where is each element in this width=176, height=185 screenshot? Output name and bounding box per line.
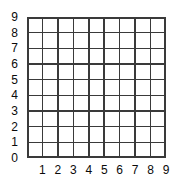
y-axis-tick-7: 7	[4, 42, 18, 54]
x-axis-tick-5: 5	[97, 164, 111, 176]
y-axis-tick-1: 1	[4, 136, 18, 148]
x-axis-tick-1: 1	[35, 164, 49, 176]
y-axis-tick-9: 9	[4, 11, 18, 23]
x-axis-tick-4: 4	[82, 164, 96, 176]
x-axis-tick-3: 3	[66, 164, 80, 176]
y-axis-tick-2: 2	[4, 121, 18, 133]
x-axis-tick-9: 9	[159, 164, 173, 176]
x-axis-tick-6: 6	[113, 164, 127, 176]
coordinate-grid-figure: 0123456789 123456789	[0, 0, 176, 185]
x-axis-tick-8: 8	[144, 164, 158, 176]
y-axis-tick-6: 6	[4, 58, 18, 70]
plot-grid-area	[27, 17, 166, 158]
y-axis-tick-5: 5	[4, 74, 18, 86]
x-axis-tick-7: 7	[128, 164, 142, 176]
y-axis-tick-8: 8	[4, 27, 18, 39]
y-axis-tick-0: 0	[4, 152, 18, 164]
grid-lines	[27, 17, 166, 158]
x-axis-tick-2: 2	[51, 164, 65, 176]
y-axis-tick-3: 3	[4, 105, 18, 117]
y-axis-tick-4: 4	[4, 89, 18, 101]
